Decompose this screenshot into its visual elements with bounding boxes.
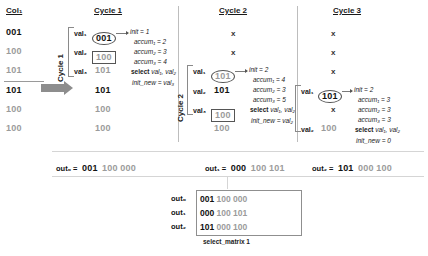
matrix-row-1-dark: 000: [200, 208, 214, 218]
cycle-1-annotation-1: accum₁ = 2: [134, 38, 166, 45]
cycle-3-row-1-value: x: [331, 48, 335, 57]
matrix-row-1-gray: 100 101: [217, 208, 248, 218]
matrix-row-2-gray: 000 100: [217, 222, 248, 232]
cycle-3-select-args: val₁, val₂: [375, 126, 400, 133]
cycle-3-annotation-0: init = 2: [354, 86, 373, 93]
cycle-1-select-keyword: select: [131, 68, 149, 75]
matrix-row-1: 000 100 101: [197, 207, 301, 219]
cycle-3-annotation-3: accum₃ = 3: [358, 116, 391, 123]
cycle-2-row-0-value: x: [231, 29, 235, 38]
output-0-label: out₀ =: [56, 164, 78, 173]
cycle-2-annotation-0: init = 2: [249, 66, 268, 73]
cycle-3-annotation-2: accum₂ = 3: [358, 106, 391, 113]
col1-divider: [4, 81, 44, 82]
cycle-3-row-3-value: 101: [318, 90, 342, 103]
cycle-2-row-2-label: val₁: [193, 68, 206, 75]
output-1-dark: 000: [231, 163, 247, 173]
matrix-drop-line: [227, 176, 228, 189]
cycle-1-annotation-2: accum₂ = 3: [134, 48, 167, 55]
matrix-row-2-dark: 101: [200, 222, 214, 232]
cycle-2-annotation-initnew: init_new = val₂: [251, 117, 293, 124]
cycle-3-row-0-value: x: [331, 29, 335, 38]
cycle-3-select-keyword: select: [355, 126, 373, 133]
col1-header: Col₁: [6, 6, 22, 15]
matrix-row-0-dark: 001: [200, 194, 214, 204]
cycle-2-side-label: Cycle 2: [176, 94, 185, 122]
cycle-2-annotation-1: accum₁ = 4: [253, 76, 285, 83]
cycle-2-annotation-3: accum₃ = 5: [253, 96, 286, 103]
matrix-row-1-label: out₁: [171, 208, 186, 217]
cycle-3-row-4-value: x: [331, 105, 335, 114]
cycle-2-row-4-label: val₃: [193, 107, 206, 114]
col1-value-5: 100: [6, 123, 22, 133]
matrix-row-0-gray: 100 000: [217, 194, 248, 204]
col1-value-1: 100: [6, 46, 22, 56]
cycle-2-annotation-2: accum₂ = 3: [253, 86, 286, 93]
select-matrix-caption: select_matrix 1: [203, 238, 250, 245]
matrix-row-0-label: out₀: [171, 194, 186, 203]
cycle-1-row-1-value: 100: [92, 51, 116, 64]
matrix-row-2-label: out₂: [171, 222, 186, 231]
cycle-2-row-2-value: 101: [211, 70, 235, 83]
cycle-3-row-5-value: 100: [321, 123, 337, 133]
col1-value-4: 100: [6, 104, 22, 114]
cycle-1-row-2-label: val₃: [74, 68, 87, 75]
cycle-2-select-args: val₁, val₂: [270, 106, 295, 113]
cycle-2-title: Cycle 2: [219, 6, 247, 15]
matrix-row-2: 101 000 100: [197, 221, 301, 233]
output-0: out₀ = 001 100 000: [56, 157, 136, 175]
cycle-2-group-bracket: [187, 65, 193, 115]
output-2-gray: 000 100: [358, 163, 392, 173]
cycle-3-row-2-value: x: [331, 67, 335, 76]
col1-value-2: 101: [6, 65, 22, 75]
cycle-1-annotation-0: init = 1: [130, 28, 149, 35]
output-2-dark: 101: [338, 163, 354, 173]
col1-value-3: 101: [6, 85, 22, 95]
cycle-1-row-1-label: val₂: [74, 49, 87, 56]
cycle-3-annotation-1: accum₁ = 3: [358, 96, 390, 103]
cycle-3-title: Cycle 3: [333, 6, 361, 15]
cycle-3-annotation-initnew: init_new = 0: [356, 137, 391, 144]
cycle-2-connector-arrow: [245, 69, 248, 73]
cycle-1-row-0-label: val₁: [74, 30, 87, 37]
outputs-bottom-rule: [52, 176, 424, 177]
output-1-label: out₁ =: [205, 164, 226, 173]
cycle-3-row-3-label: val₁: [301, 88, 314, 95]
output-0-gray: 100 000: [102, 163, 136, 173]
cycle-1-title: Cycle 1: [94, 6, 122, 15]
cycle-2-row-5-value: 100: [214, 123, 230, 133]
cycle-2-select-keyword: select: [250, 106, 268, 113]
cycle-3-annotation-select: select val₁, val₂: [355, 126, 400, 133]
outputs-top-rule: [52, 151, 424, 152]
col1-value-0: 001: [6, 27, 22, 37]
cycle-2-row-3-value: 101: [214, 85, 230, 95]
cycle-2-row-1-value: x: [231, 48, 235, 57]
cycle-1-row-2-value: 101: [95, 65, 111, 75]
cycle-1-connector-arrow: [126, 31, 129, 35]
cycle-1-annotation-initnew: init_new = val₃: [132, 79, 174, 86]
cycle-3-group-bracket: [295, 85, 301, 132]
cycle-1-row-5-value: 100: [95, 123, 111, 133]
cycle-1-annotation-select: select val₁, val₂: [131, 68, 176, 75]
output-2: out₂ = 101 000 100: [312, 157, 392, 175]
output-0-dark: 001: [82, 163, 98, 173]
output-1-gray: 100 101: [251, 163, 285, 173]
cycle-2-row-3-label: val₂: [193, 88, 206, 95]
output-1: out₁ = 000 100 101: [205, 157, 285, 175]
cycle-1-group-bracket: [68, 27, 74, 77]
cycle-1-row-0-value: 001: [92, 32, 116, 45]
output-2-label: out₂ =: [312, 164, 333, 173]
cycle-1-row-3-value: 101: [95, 85, 111, 95]
cycle1-arrow-body: [41, 84, 65, 92]
cycle-2-row-4-value: 100: [211, 109, 235, 122]
cycle1-arrow-head: [64, 81, 73, 95]
cycle-1-row-4-value: 100: [95, 104, 111, 114]
matrix-row-0: 001 100 000: [197, 193, 301, 205]
select-matrix-box: 001 100 000 000 100 101 101 000 100: [196, 190, 302, 236]
cycle1-arrow-label: Cycle 1: [56, 54, 65, 82]
cycle-1-annotation-3: accum₃ = 4: [134, 58, 167, 65]
cycle-3-row-5-label: val₂: [301, 126, 314, 133]
cycle-3-connector-arrow: [350, 89, 353, 93]
cycle-2-annotation-select: select val₁, val₂: [250, 106, 295, 113]
cycle-1-select-args: val₁, val₂: [151, 68, 176, 75]
